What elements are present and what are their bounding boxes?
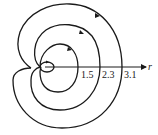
tick-label-3: 3.1 [124,69,137,80]
spiral-diagram: 1.5 2.3 3.1 r [0,0,158,135]
arrow-icon-ring-2 [79,30,84,34]
spiral-ring-1 [40,44,78,92]
inner-loop-arrow [46,61,49,64]
tick-label-2: 2.3 [102,69,115,80]
axis-label-r: r [148,61,152,72]
tick-label-1: 1.5 [81,69,94,80]
